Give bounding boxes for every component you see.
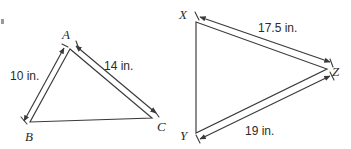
- vertex-label-c: C: [157, 119, 166, 134]
- triangle-xyz: X Y Z 17.5 in. 19 in.: [178, 7, 340, 143]
- measure-label-yz: 19 in.: [245, 124, 274, 138]
- tick-yz-at-y: [196, 135, 200, 143]
- triangle-abc: A B C 10 in. 14 in.: [10, 27, 166, 144]
- tick-ab-at-a: [62, 44, 68, 47]
- geometry-canvas: A B C 10 in. 14 in. X Y Z: [0, 0, 351, 149]
- dimension-arrow-ac: [76, 46, 156, 113]
- vertex-label-b: B: [25, 129, 33, 144]
- measure-label-ab: 10 in.: [10, 69, 39, 83]
- geometry-figure: A B C 10 in. 14 in. X Y Z: [0, 0, 351, 149]
- measure-label-ac: 14 in.: [104, 59, 133, 73]
- vertex-label-z: Z: [332, 64, 340, 79]
- dimension-arrow-ab: [24, 48, 64, 121]
- vertex-label-a: A: [61, 27, 70, 42]
- stray-speck: [1, 19, 4, 24]
- vertex-label-x: X: [178, 7, 188, 22]
- tick-xz-at-x: [195, 12, 199, 20]
- tick-ac-at-c: [154, 110, 159, 117]
- triangle-abc-outline: [30, 49, 152, 122]
- measure-label-xz: 17.5 in.: [258, 21, 297, 35]
- vertex-label-y: Y: [180, 128, 189, 143]
